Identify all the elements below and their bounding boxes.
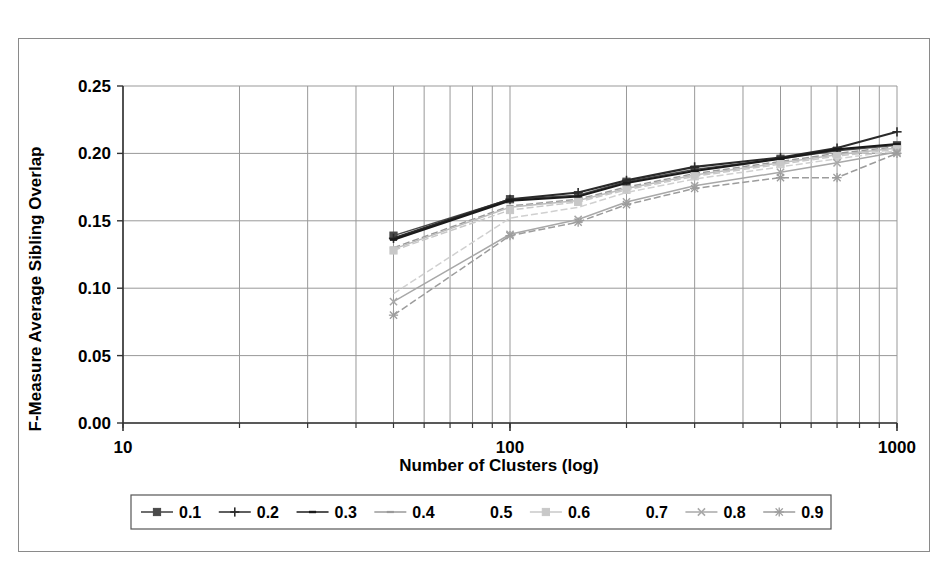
series-line (394, 148, 897, 249)
legend-label: 0.1 (179, 504, 201, 521)
y-tick-labels: 0.250.200.150.100.050.00 (78, 77, 111, 433)
data-point-marker (389, 311, 398, 320)
legend-label: 0.2 (257, 504, 279, 521)
figure-frame: 0.250.200.150.100.050.00 101001000 F-Mea… (18, 38, 930, 552)
legend-item-0-5[interactable]: 0.5 (490, 504, 512, 521)
series-line (394, 144, 897, 240)
data-point-marker (892, 149, 901, 158)
plot-grid (123, 86, 897, 423)
legend-label: 0.8 (723, 504, 745, 521)
x-tick-label: 1000 (878, 438, 916, 457)
legend-label: 0.6 (568, 504, 590, 521)
data-point-marker (892, 127, 901, 136)
legend-box: 0.10.20.30.40.50.60.70.80.9 (131, 495, 831, 529)
data-point-marker (776, 173, 785, 182)
data-point-marker (775, 507, 784, 516)
data-point-marker (506, 206, 513, 213)
chart-svg: 0.250.200.150.100.050.00 101001000 F-Mea… (19, 39, 929, 551)
x-tick-label: 10 (114, 438, 133, 457)
data-series-0-8 (390, 148, 901, 305)
y-tick-label: 0.20 (78, 144, 111, 163)
y-tick-label: 0.00 (78, 414, 111, 433)
y-tick-label: 0.15 (78, 212, 111, 231)
data-point-marker (390, 247, 397, 254)
legend-label: 0.5 (490, 504, 512, 521)
data-point-marker (153, 508, 160, 515)
data-point-marker (832, 173, 841, 182)
y-axis-title: F-Measure Average Sibling Overlap (26, 147, 45, 432)
data-point-marker (575, 198, 582, 205)
data-point-marker (574, 218, 583, 227)
legend-item-0-7[interactable]: 0.7 (646, 504, 668, 521)
data-point-marker (690, 184, 699, 193)
data-point-marker (622, 200, 631, 209)
series-line (394, 152, 897, 302)
x-axis-title: Number of Clusters (log) (399, 456, 598, 475)
x-tick-labels: 101001000 (114, 438, 916, 457)
data-series-0-5 (394, 148, 897, 249)
legend-label: 0.9 (801, 504, 823, 521)
plot-axes (117, 86, 897, 431)
data-point-marker (542, 508, 549, 515)
legend-label: 0.7 (646, 504, 668, 521)
y-tick-label: 0.10 (78, 279, 111, 298)
legend-label: 0.3 (335, 504, 357, 521)
y-tick-label: 0.05 (78, 347, 111, 366)
data-series-0-9 (389, 149, 902, 320)
data-series-group (389, 127, 902, 320)
y-tick-label: 0.25 (78, 77, 111, 96)
legend-label: 0.4 (412, 504, 434, 521)
x-tick-label: 100 (496, 438, 524, 457)
data-point-marker (505, 231, 514, 240)
